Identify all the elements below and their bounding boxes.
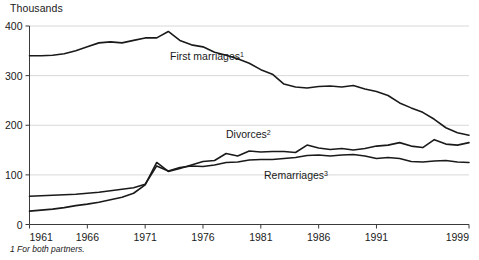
line-chart-plot: 0100200300400 19611966197119761981198619… (0, 0, 479, 260)
series-annotation-divorces: Divorces2 (226, 128, 271, 140)
x-axis-tick-label: 1966 (76, 231, 100, 243)
x-axis-tick-label: 1991 (365, 231, 389, 243)
x-axis-tick-label: 1961 (30, 231, 54, 243)
y-axis-tick-label: 0 (17, 219, 23, 231)
x-axis-ticks-group: 19611966197119761981198619911999 (30, 225, 470, 243)
x-axis-tick-label: 1999 (446, 231, 470, 243)
x-axis-tick-label: 1986 (307, 231, 331, 243)
x-axis-tick-label: 1976 (191, 231, 215, 243)
x-axis-tick-label: 1981 (249, 231, 273, 243)
gridlines-group (30, 26, 470, 175)
series-annotations-group: First marriages1Divorces2Remarriages3 (170, 50, 328, 181)
chart-footnote: 1 For both partners. (10, 244, 85, 254)
y-axis-ticks-group: 0100200300400 (5, 20, 30, 231)
y-axis-tick-label: 400 (5, 20, 23, 32)
x-axis-tick-label: 1971 (133, 231, 157, 243)
y-axis-tick-label: 100 (5, 169, 23, 181)
series-line-first-marriages (30, 31, 470, 135)
y-axis-tick-label: 300 (5, 70, 23, 82)
chart-page: Thousands 0100200300400 1961196619711976… (0, 0, 479, 260)
series-paths-group (30, 31, 470, 211)
series-annotation-remarriages: Remarriages3 (264, 169, 328, 181)
series-annotation-first-marriages: First marriages1 (170, 50, 244, 62)
y-axis-tick-label: 200 (5, 119, 23, 131)
